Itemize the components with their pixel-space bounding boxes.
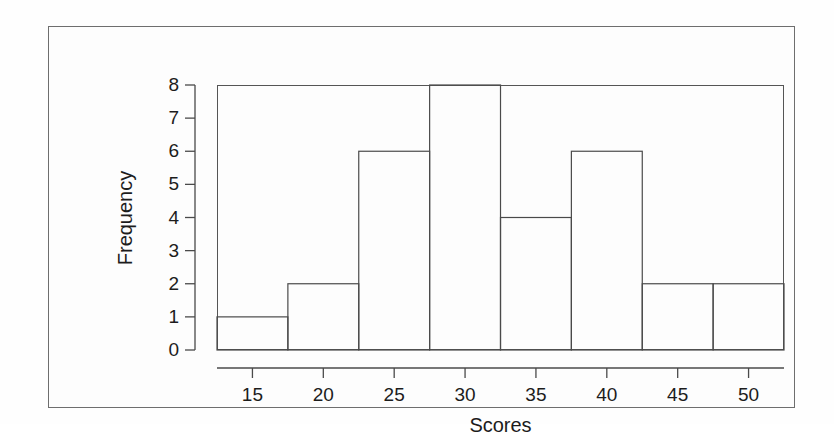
y-tick-label: 5 (151, 173, 179, 195)
y-axis-title: Frequency (114, 170, 137, 265)
figure-outer-border: 0123456781520253035404550 Frequency Scor… (48, 26, 795, 408)
y-tick-label: 8 (151, 74, 179, 96)
x-axis-title: Scores (469, 414, 531, 436)
y-tick-label: 2 (151, 273, 179, 295)
x-tick-label: 45 (667, 384, 688, 406)
x-tick-label: 40 (596, 384, 617, 406)
x-tick-label: 35 (525, 384, 546, 406)
x-tick-label: 25 (384, 384, 405, 406)
y-tick-label: 4 (151, 207, 179, 229)
y-tick-label: 6 (151, 140, 179, 162)
x-tick-label: 20 (313, 384, 334, 406)
y-tick-label: 3 (151, 240, 179, 262)
y-tick-label: 7 (151, 107, 179, 129)
x-tick-label: 15 (242, 384, 263, 406)
x-tick-label: 50 (738, 384, 759, 406)
y-tick-label: 0 (151, 339, 179, 361)
x-tick-label: 30 (454, 384, 475, 406)
y-tick-label: 1 (151, 306, 179, 328)
